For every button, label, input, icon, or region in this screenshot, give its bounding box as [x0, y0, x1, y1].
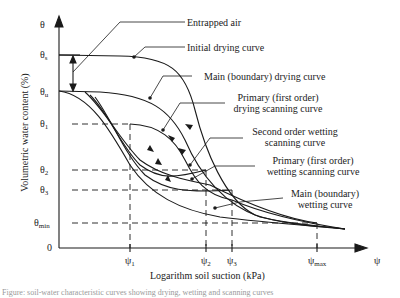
- x-axis-title: Logarithm soil suction (kPa): [150, 270, 265, 281]
- y-tick-theta-3: θ3: [40, 185, 48, 198]
- label-main-drying-curve: Main (boundary) drying curve: [204, 71, 325, 82]
- x-tick-psi: ψ: [374, 256, 380, 266]
- y-tick-theta-1: θ1: [40, 119, 48, 132]
- label-initial-drying-curve: Initial drying curve: [187, 42, 264, 53]
- y-tick-theta: θ: [40, 20, 45, 30]
- x-tick-psi-1: ψ1: [125, 256, 135, 269]
- x-axis-arrow-icon: [355, 244, 367, 252]
- y-tick-theta-2: θ2: [40, 165, 48, 178]
- y-tick-zero: 0: [47, 243, 52, 253]
- y-tick-theta-min: θmin: [34, 218, 50, 231]
- y-tick-theta-u: θu: [40, 87, 48, 100]
- x-tick-psi-2: ψ2: [201, 256, 211, 269]
- label-primary-wetting-scanning-curve: Primary (first order)wetting scanning cu…: [258, 155, 368, 177]
- y-axis-arrow-icon: [55, 16, 63, 27]
- x-tick-psi-max: ψmax: [308, 256, 326, 269]
- figure-caption: Figure: soil-water characteristic curves…: [2, 288, 398, 298]
- label-primary-drying-scanning-curve: Primary (first order)drying scanning cur…: [228, 92, 328, 114]
- y-axis-title: Volumetric water content (%): [19, 53, 30, 213]
- label-entrapped-air: Entrapped air: [187, 17, 241, 28]
- x-tick-psi-3: ψ3: [227, 256, 237, 269]
- y-tick-theta-s: θs: [40, 50, 48, 63]
- label-main-wetting-curve: Main (boundary)wetting curve: [285, 188, 365, 210]
- label-second-wetting-scanning-curve: Second order wettingscanning curve: [245, 126, 345, 148]
